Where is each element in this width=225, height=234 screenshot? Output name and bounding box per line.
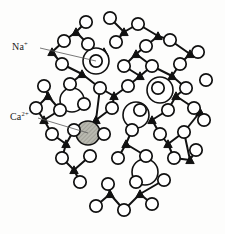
oxygen-atom	[80, 16, 92, 28]
oxygen-atom	[190, 144, 202, 156]
oxygen-atom	[130, 176, 142, 188]
oxygen-atom	[90, 200, 102, 212]
oxygen-atom	[58, 35, 70, 47]
oxygen-atom	[102, 178, 114, 190]
oxygen-atom	[74, 176, 86, 188]
oxygen-atom	[192, 46, 204, 58]
oxygen-atom	[188, 102, 200, 114]
oxygen-atom	[152, 82, 164, 94]
oxygen-atom	[64, 78, 76, 90]
oxygen-atom	[162, 104, 174, 116]
oxygen-atom	[56, 58, 68, 70]
label-sodium-text: Na	[12, 41, 24, 52]
silicon-node	[122, 140, 130, 148]
label-sodium-charge: +	[24, 40, 28, 47]
oxygen-atom	[30, 102, 42, 114]
label-calcium-charge: 2+	[22, 110, 29, 117]
oxygen-atom	[112, 152, 124, 164]
oxygen-atom	[146, 198, 158, 210]
oxygen-atom	[158, 174, 170, 186]
oxygen-atom	[132, 18, 144, 30]
oxygen-atom	[122, 80, 134, 92]
oxygen-atom	[56, 152, 68, 164]
oxygen-atom	[198, 114, 210, 126]
silicon-node	[78, 70, 86, 78]
oxygen-atom	[110, 36, 122, 48]
figure-canvas: Na+ Ca2+	[0, 0, 225, 234]
label-calcium: Ca2+	[10, 110, 29, 122]
oxygen-atom	[46, 128, 58, 140]
oxygen-atom	[164, 34, 176, 46]
label-calcium-text: Ca	[10, 111, 22, 122]
oxygen-atom	[106, 102, 118, 114]
oxygen-atom	[154, 128, 166, 140]
oxygen-atom	[178, 126, 190, 138]
oxygen-atom	[82, 38, 94, 50]
oxygen-atom	[180, 82, 192, 94]
oxygen-atom	[54, 104, 66, 116]
oxygen-layer	[30, 12, 212, 216]
oxygen-atom	[104, 12, 116, 24]
oxygen-atom	[140, 150, 152, 162]
oxygen-atom	[84, 150, 96, 162]
label-sodium: Na+	[12, 40, 28, 52]
oxygen-atom	[98, 128, 110, 140]
silicon-node	[154, 32, 162, 40]
oxygen-atom	[146, 60, 158, 72]
oxygen-atom	[78, 98, 90, 110]
oxygen-atom	[134, 104, 146, 116]
oxygen-atom	[118, 204, 130, 216]
oxygen-atom	[174, 58, 186, 70]
silicon-node	[136, 190, 144, 198]
oxygen-atom	[94, 82, 106, 94]
oxygen-atom	[200, 74, 212, 86]
oxygen-atom	[140, 40, 152, 52]
glass-network-diagram	[0, 0, 225, 234]
oxygen-atom	[118, 60, 130, 72]
oxygen-atom	[38, 80, 50, 92]
oxygen-atom	[126, 124, 138, 136]
oxygen-atom	[168, 152, 180, 164]
